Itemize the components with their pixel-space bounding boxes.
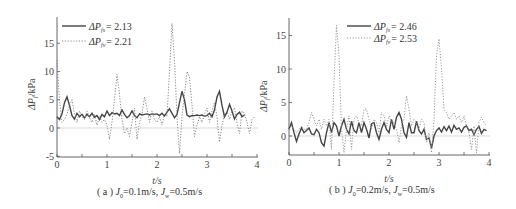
svg-text:1: 1 — [337, 157, 342, 168]
svg-text:0: 0 — [55, 159, 60, 170]
chart-b: 051015 01234 ΔPfs= 2.46 ΔPfv= 2.53 ΔPf/k… — [258, 18, 492, 184]
svg-text:5: 5 — [281, 97, 286, 108]
figure-canvas: -5051015 01234 ΔPfs= 2.13 ΔPfv= 2.21 ΔPf… — [0, 0, 516, 209]
chart-b-y-axis-label: ΔPf/kPa — [258, 80, 270, 113]
chart-a-x-axis-label: t/s — [152, 175, 162, 186]
chart-b-legend: ΔPfs= 2.46 ΔPfv= 2.53 — [347, 21, 417, 45]
caption-jw-value: =0.5m/s — [169, 186, 202, 197]
legend-item-fv: ΔPfv= 2.21 — [88, 36, 132, 48]
chart-b-caption: ( b ) J0=0.2m/s, Jw=0.5m/s — [329, 184, 435, 197]
svg-text:4: 4 — [487, 157, 492, 168]
svg-text:0: 0 — [287, 157, 292, 168]
legend-item-fs: ΔPfs= 2.46 — [373, 21, 417, 33]
svg-text:0: 0 — [281, 131, 286, 142]
svg-text:2: 2 — [387, 157, 392, 168]
caption-prefix: ( a ) — [97, 186, 116, 197]
chart-a-y-ticks: -5051015 — [44, 38, 60, 162]
chart-a-series-fv-line — [57, 24, 255, 154]
svg-text:1: 1 — [105, 159, 110, 170]
caption-j0-value: =0.1m/s, — [123, 186, 161, 197]
chart-a: -5051015 01234 ΔPfs= 2.13 ΔPfv= 2.21 ΔPf… — [26, 17, 260, 186]
svg-text:2: 2 — [155, 159, 160, 170]
chart-a-legend: ΔPfs= 2.13 ΔPfv= 2.21 — [62, 21, 132, 48]
caption-jw-value: =0.5m/s — [402, 184, 435, 195]
caption-j0-value: =0.2m/s, — [356, 184, 394, 195]
svg-text:5: 5 — [49, 94, 54, 105]
svg-text:4: 4 — [255, 159, 260, 170]
svg-text:0: 0 — [49, 123, 54, 134]
svg-text:3: 3 — [205, 159, 210, 170]
chart-a-x-ticks: 01234 — [55, 154, 260, 170]
chart-b-series-fs-line — [289, 113, 487, 149]
svg-text:-5: -5 — [46, 151, 54, 162]
chart-b-y-ticks: 051015 — [276, 30, 292, 142]
svg-text:3: 3 — [437, 157, 442, 168]
legend-item-fs: ΔPfs= 2.13 — [88, 21, 132, 33]
svg-text:10: 10 — [276, 64, 286, 75]
svg-text:15: 15 — [276, 30, 286, 41]
chart-b-x-ticks: 01234 — [287, 152, 492, 168]
chart-a-y-axis-label: ΔPf/kPa — [26, 78, 38, 111]
chart-a-caption: ( a ) J0=0.1m/s, Jw=0.5m/s — [97, 186, 202, 199]
svg-text:10: 10 — [44, 66, 54, 77]
legend-item-fv: ΔPfv= 2.53 — [373, 33, 417, 45]
chart-b-x-axis-label: t/s — [384, 173, 394, 184]
svg-text:15: 15 — [44, 38, 54, 49]
caption-prefix: ( b ) — [329, 184, 348, 195]
